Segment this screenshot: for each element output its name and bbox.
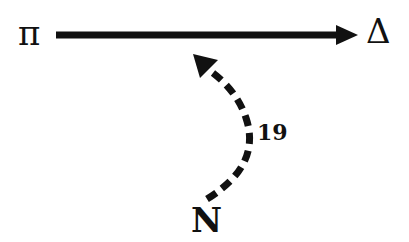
arrowhead-icon — [336, 25, 358, 45]
diagram-canvas: π Δ N 19 — [0, 0, 409, 242]
node-n-label: N — [191, 203, 222, 237]
solid-arrow-pi-to-delta — [56, 25, 358, 45]
edge-label-19: 19 — [257, 121, 288, 143]
dashed-arrow-n-to-main — [193, 54, 250, 199]
node-pi-label: π — [18, 16, 40, 50]
node-delta-label: Δ — [366, 14, 391, 48]
